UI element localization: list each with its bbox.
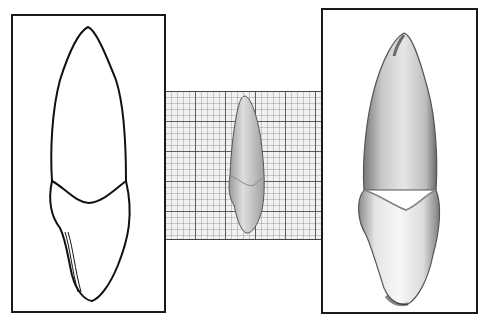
root-outline (51, 27, 126, 181)
tooth-illustrations (0, 0, 484, 322)
cemento-enamel-junction (52, 181, 126, 203)
tooth-outline-drawing (50, 27, 130, 301)
root-photo (363, 33, 436, 190)
crown-outline (50, 181, 130, 301)
tooth-photograph-large (359, 33, 440, 305)
marginal-ridge-line (65, 232, 78, 292)
tooth-specimen-small (229, 96, 264, 233)
